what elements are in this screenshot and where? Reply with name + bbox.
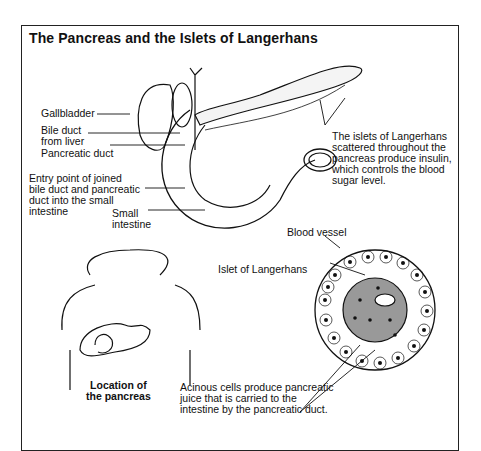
label-pancreatic-duct: Pancreatic duct: [41, 148, 113, 159]
label-small-intestine: Smallintestine: [112, 208, 151, 230]
label-line: intestine: [112, 219, 151, 230]
label-gallbladder: Gallbladder: [41, 108, 95, 119]
label-line: from liver: [41, 136, 84, 147]
label-acinous: Acinous cells produce pancreaticjuice th…: [180, 382, 334, 415]
label-line: sugar level.: [332, 175, 452, 186]
label-line: the pancreas: [86, 391, 151, 402]
label-bile-duct: Bile ductfrom liver: [41, 125, 84, 147]
label-islets-description: The islets of Langerhansscattered throug…: [332, 131, 452, 186]
label-location: Location ofthe pancreas: [86, 380, 151, 402]
label-islet: Islet of Langerhans: [218, 264, 307, 275]
label-blood-vessel: Blood vessel: [287, 227, 347, 238]
label-line: intestine by the pancreatic duct.: [180, 404, 334, 415]
